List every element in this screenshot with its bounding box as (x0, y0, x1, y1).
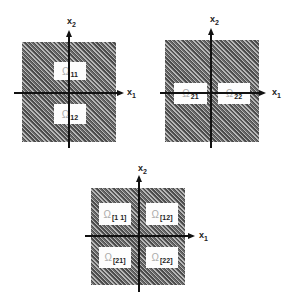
region-subscript: 21 (191, 93, 199, 100)
region-omega-12: Ω 12 (54, 104, 86, 124)
region-subscript: 12 (70, 114, 78, 121)
x2-label: x2 (138, 164, 147, 175)
x1-axis (14, 92, 118, 94)
x2-axis (68, 36, 70, 148)
x2-axis (210, 34, 212, 148)
region-subscript: [21] (113, 257, 125, 264)
region-subscript: 11 (71, 71, 78, 78)
region-omega-11: Ω [1 1] (99, 203, 131, 225)
region-omega-21: Ω [21] (99, 247, 131, 268)
x1-label: x1 (199, 231, 208, 242)
region-omega-12: Ω [12] (146, 203, 178, 225)
region-subscript: [22] (160, 257, 172, 264)
x2-label: x2 (67, 17, 76, 28)
x1-arrow-icon (259, 90, 266, 96)
x2-axis (138, 180, 140, 292)
x2-label: x2 (210, 15, 219, 26)
region-subscript: [1 1] (112, 214, 126, 221)
omega-symbol: Ω (152, 209, 159, 220)
omega-symbol: Ω (105, 252, 112, 263)
x1-arrow-icon (117, 90, 124, 96)
omega-symbol: Ω (104, 209, 111, 220)
x2-arrow-icon (66, 30, 72, 37)
x2-arrow-icon (208, 28, 214, 35)
x2-arrow-icon (136, 175, 142, 182)
region-subscript: [12] (160, 214, 172, 221)
x1-axis (85, 235, 189, 237)
x1-label: x1 (127, 88, 136, 99)
omega-symbol: Ω (152, 252, 159, 263)
region-subscript: 22 (234, 93, 242, 100)
region-omega-22: Ω [22] (146, 247, 178, 268)
x1-arrow-icon (188, 233, 195, 239)
x1-label: x1 (272, 88, 281, 99)
region-omega-11: Ω 11 (54, 62, 86, 80)
